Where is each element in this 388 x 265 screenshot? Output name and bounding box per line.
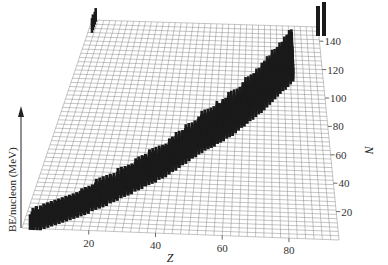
vertical-axis — [18, 106, 24, 228]
arrow-up-icon — [18, 106, 24, 117]
z-tick-label: 80 — [283, 244, 295, 256]
z-tick-label: 40 — [150, 239, 162, 251]
vertical-axis-title: BE/nucleon (MeV) — [6, 147, 19, 232]
binding-energy-3d-chart: 20406080 20406080100120140 BE/nucleon (M… — [0, 0, 388, 265]
n-tick-label: 40 — [338, 177, 350, 189]
n-tick-label: 140 — [324, 35, 341, 47]
n-tick-label: 80 — [333, 120, 345, 132]
isolated-heavy-bars — [316, 2, 326, 36]
n-tick-label: 100 — [330, 92, 347, 104]
n-axis-title: N — [362, 145, 376, 155]
z-tick-label: 60 — [217, 242, 229, 254]
n-tick-label: 60 — [336, 149, 348, 161]
n-tick-label: 20 — [341, 206, 353, 218]
z-axis-title: Z — [167, 251, 174, 265]
n-tick-label: 120 — [327, 64, 344, 76]
n-axis-ticks: 20406080100120140 — [319, 35, 352, 217]
z-tick-label: 20 — [83, 237, 95, 249]
